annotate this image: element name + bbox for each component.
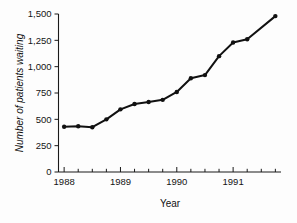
- data-point: [161, 98, 165, 102]
- data-point: [175, 90, 179, 94]
- y-tick-label-1000: 1,000: [28, 61, 52, 72]
- x-axis-group: 1988198919901991: [54, 167, 281, 187]
- y-axis-tick-labels: 02505007501,0001,2501,500: [28, 8, 52, 177]
- data-point: [90, 125, 94, 129]
- y-axis-title: Number of patients waiting: [14, 33, 25, 152]
- y-tick-label-500: 500: [36, 114, 52, 125]
- x-tick-label-1990: 1990: [166, 176, 187, 187]
- data-point: [189, 76, 193, 80]
- x-axis-title: Year: [160, 198, 181, 209]
- data-point: [62, 125, 66, 129]
- y-tick-label-250: 250: [36, 140, 52, 151]
- series-markers: [62, 14, 278, 130]
- data-point: [118, 107, 122, 111]
- y-axis-ticks: [55, 14, 59, 172]
- data-series-patients-waiting: [62, 14, 278, 130]
- data-point: [76, 124, 80, 128]
- line-chart-canvas: 02505007501,0001,2501,500 19881989199019…: [0, 0, 297, 223]
- data-point: [132, 102, 136, 106]
- x-axis-ticks: [64, 167, 275, 172]
- data-point: [104, 117, 108, 121]
- data-point: [231, 40, 235, 44]
- y-tick-label-1500: 1,500: [28, 8, 52, 19]
- y-axis-group: 02505007501,0001,2501,500: [28, 8, 59, 177]
- y-tick-label-750: 750: [36, 87, 52, 98]
- chart-figure: 02505007501,0001,2501,500 19881989199019…: [0, 0, 297, 223]
- x-tick-label-1988: 1988: [54, 176, 75, 187]
- x-axis-tick-labels: 1988198919901991: [54, 176, 244, 187]
- x-tick-label-1989: 1989: [110, 176, 131, 187]
- data-point: [245, 37, 249, 41]
- data-point: [146, 100, 150, 104]
- data-point: [217, 54, 221, 58]
- y-tick-label-0: 0: [46, 166, 51, 177]
- data-point: [273, 14, 277, 18]
- data-point: [203, 73, 207, 77]
- series-line: [64, 16, 275, 127]
- x-tick-label-1991: 1991: [223, 176, 244, 187]
- y-tick-label-1250: 1,250: [28, 35, 52, 46]
